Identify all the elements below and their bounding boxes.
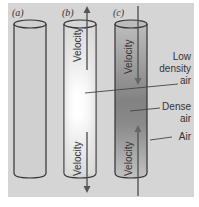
svg-text:Air: Air — [179, 131, 192, 142]
panel-label-c: (c) — [113, 7, 125, 19]
arrow-up-icon — [84, 6, 91, 13]
leader-line-air — [150, 137, 172, 140]
svg-text:Dense: Dense — [162, 101, 191, 112]
panel-label-a: (a) — [12, 7, 24, 19]
convection-diagram: (a) (b) Velocity Velocity (c) Velocity V… — [0, 0, 199, 207]
annotation-dense-air: Dense air — [162, 101, 192, 124]
cylinder-b-low-density: (b) Velocity Velocity — [62, 6, 96, 193]
cylinder-a: (a) — [12, 7, 46, 178]
svg-text:Low: Low — [173, 51, 192, 62]
annotation-air: Air — [179, 131, 192, 142]
arrow-down-icon — [84, 186, 91, 193]
svg-text:air: air — [180, 75, 192, 86]
panel-label-b: (b) — [62, 7, 74, 19]
velocity-label-b-bottom: Velocity — [72, 142, 83, 176]
cylinder-c-dense: (c) Velocity Velocity — [113, 6, 147, 196]
velocity-label-c-bottom: Velocity — [123, 142, 134, 176]
annotation-low-density-air: Low density air — [159, 51, 191, 86]
svg-text:air: air — [180, 113, 192, 124]
velocity-label-b-top: Velocity — [72, 28, 83, 62]
svg-text:density: density — [159, 63, 191, 74]
velocity-label-c-top: Velocity — [123, 40, 134, 74]
